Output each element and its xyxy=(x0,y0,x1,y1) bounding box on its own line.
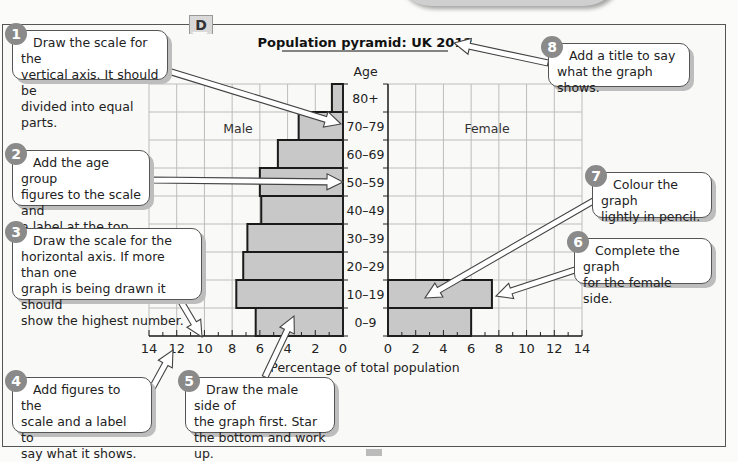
age-group-label: 30–39 xyxy=(346,231,384,246)
age-group-label: 40–49 xyxy=(346,203,384,218)
x-tick-label: 12 xyxy=(546,341,563,356)
male-bar xyxy=(236,280,343,308)
step-badge-7: 7 xyxy=(585,165,607,187)
age-group-label: 60–69 xyxy=(346,147,384,162)
x-tick-label: 6 xyxy=(467,341,475,356)
step-badge-3: 3 xyxy=(5,221,27,243)
callout-2-text: Add the age group figures to the scale a… xyxy=(21,155,141,235)
y-axis-label: Age xyxy=(353,64,377,79)
female-side-label: Female xyxy=(464,121,510,136)
age-group-label: 70–79 xyxy=(346,119,384,134)
x-tick-label: 2 xyxy=(412,341,420,356)
x-tick-label: 2 xyxy=(311,341,319,356)
callout-4: 4 Add figures to the scale and a label t… xyxy=(12,377,152,433)
age-group-label: 20–29 xyxy=(346,259,384,274)
age-group-label: 10–19 xyxy=(346,287,384,302)
x-tick-label: 10 xyxy=(518,341,535,356)
callout-6: 6 Complete the graph for the female side… xyxy=(574,238,712,284)
callout-2: 2 Add the age group figures to the scale… xyxy=(12,150,150,206)
age-group-label: 80+ xyxy=(352,91,378,106)
male-side-label: Male xyxy=(223,121,253,136)
step-badge-8: 8 xyxy=(541,36,563,58)
callout-1-text: Draw the scale for the vertical axis. It… xyxy=(21,35,159,131)
callout-5-text: Draw the male side of the graph first. S… xyxy=(194,382,326,462)
page-marker xyxy=(366,449,382,456)
callout-8: 8 Add a title to say what the graph show… xyxy=(548,43,690,87)
callout-7-text: Colour the graph lightly in pencil. xyxy=(601,177,703,225)
step-badge-4: 4 xyxy=(5,370,27,392)
age-group-label: 0–9 xyxy=(354,315,376,330)
step-badge-2: 2 xyxy=(5,143,27,165)
male-bar xyxy=(278,140,343,168)
callout-5: 5 Draw the male side of the graph first.… xyxy=(185,377,335,433)
x-tick-label: 14 xyxy=(141,341,158,356)
step-badge-5: 5 xyxy=(178,370,200,392)
x-tick-label: 8 xyxy=(495,341,503,356)
callout-3: 3 Draw the scale for the horizontal axis… xyxy=(12,228,202,300)
callout-8-text: Add a title to say what the graph shows. xyxy=(557,48,681,96)
x-tick-label: 4 xyxy=(439,341,447,356)
x-tick-label: 0 xyxy=(384,341,392,356)
x-tick-label: 14 xyxy=(574,341,591,356)
callout-4-text: Add figures to the scale and a label to … xyxy=(21,382,143,462)
x-tick-label: 6 xyxy=(256,341,264,356)
male-bar xyxy=(247,224,343,252)
male-bar xyxy=(243,252,343,280)
callout-1: 1 Draw the scale for the vertical axis. … xyxy=(12,30,168,80)
male-bar xyxy=(256,308,343,336)
chart-title: Population pyramid: UK 2012 xyxy=(258,35,473,50)
callout-6-text: Complete the graph for the female side. xyxy=(583,243,703,307)
x-tick-label: 0 xyxy=(339,341,347,356)
x-tick-label: 8 xyxy=(228,341,236,356)
female-bar xyxy=(388,308,471,336)
step-badge-1: 1 xyxy=(5,23,27,45)
x-axis-label: Percentage of total population xyxy=(270,360,459,375)
arrow-8-icon xyxy=(454,39,549,66)
x-tick-label: 10 xyxy=(196,341,213,356)
step-badge-6: 6 xyxy=(567,231,589,253)
callout-3-text: Draw the scale for the horizontal axis. … xyxy=(21,233,193,329)
age-group-label: 50–59 xyxy=(346,175,384,190)
callout-7: 7 Colour the graph lightly in pencil. xyxy=(592,172,712,218)
male-bar xyxy=(332,84,343,112)
male-bar xyxy=(261,196,343,224)
arrow-1-icon xyxy=(164,67,341,127)
